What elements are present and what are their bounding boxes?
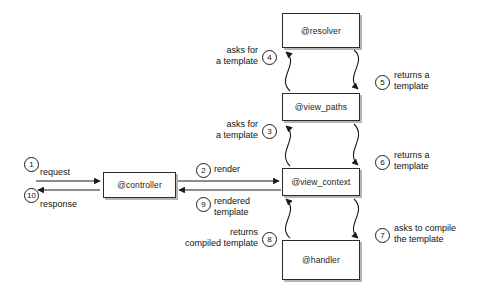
step-badge-5-text: 5 bbox=[380, 78, 384, 87]
step-badge-8-text: 8 bbox=[267, 235, 271, 244]
step-label-response: response bbox=[40, 199, 77, 210]
step-label-rendered-template: rendered template bbox=[214, 196, 250, 218]
step-badge-1-text: 1 bbox=[29, 160, 33, 169]
step-badge-1[interactable]: 1 bbox=[24, 157, 39, 172]
step-badge-9-text: 9 bbox=[201, 200, 205, 209]
node-view-context[interactable]: @view_context bbox=[282, 168, 360, 196]
step-badge-10-text: 10 bbox=[27, 191, 36, 200]
node-resolver[interactable]: @resolver bbox=[282, 13, 360, 48]
arrow-returns-template-6 bbox=[353, 124, 358, 165]
node-view-paths[interactable]: @view_paths bbox=[282, 93, 360, 121]
step-label-request: request bbox=[40, 167, 70, 178]
node-view-paths-label: @view_paths bbox=[295, 102, 347, 112]
arrow-asks-view-paths bbox=[285, 126, 290, 166]
step-label-render: render bbox=[214, 164, 240, 175]
node-controller[interactable]: @controller bbox=[103, 172, 176, 198]
step-label-asks-compile: asks to compile the template bbox=[394, 223, 456, 245]
step-badge-3-text: 3 bbox=[267, 127, 271, 136]
step-label-returns-compiled: returns compiled template bbox=[156, 227, 258, 249]
step-badge-8[interactable]: 8 bbox=[262, 232, 277, 247]
node-handler[interactable]: @handler bbox=[282, 240, 360, 280]
step-label-returns-template-6: returns a template bbox=[394, 150, 430, 172]
step-badge-6-text: 6 bbox=[380, 158, 384, 167]
step-badge-6[interactable]: 6 bbox=[375, 155, 390, 170]
step-badge-9[interactable]: 9 bbox=[196, 197, 211, 212]
step-badge-2[interactable]: 2 bbox=[196, 163, 211, 178]
arrow-asks-resolver bbox=[285, 52, 290, 91]
node-view-context-label: @view_context bbox=[291, 177, 350, 187]
arrow-asks-compile bbox=[353, 199, 358, 238]
step-label-returns-template-5: returns a template bbox=[394, 70, 430, 92]
node-resolver-label: @resolver bbox=[301, 26, 341, 36]
step-label-asks-resolver: asks for a template bbox=[180, 45, 258, 67]
step-badge-2-text: 2 bbox=[201, 166, 205, 175]
step-label-asks-view-paths: asks for a template bbox=[180, 119, 258, 141]
node-controller-label: @controller bbox=[117, 180, 162, 190]
step-badge-10[interactable]: 10 bbox=[24, 188, 39, 203]
step-badge-7[interactable]: 7 bbox=[375, 228, 390, 243]
step-badge-5[interactable]: 5 bbox=[375, 75, 390, 90]
arrow-returns-compiled-template bbox=[285, 199, 290, 238]
node-handler-label: @handler bbox=[302, 255, 340, 265]
step-badge-7-text: 7 bbox=[380, 231, 384, 240]
arrow-returns-template-5 bbox=[353, 50, 358, 89]
step-badge-4-text: 4 bbox=[267, 53, 271, 62]
step-badge-4[interactable]: 4 bbox=[262, 50, 277, 65]
diagram-canvas: @resolver @view_paths @view_context @han… bbox=[0, 0, 494, 294]
step-badge-3[interactable]: 3 bbox=[262, 124, 277, 139]
